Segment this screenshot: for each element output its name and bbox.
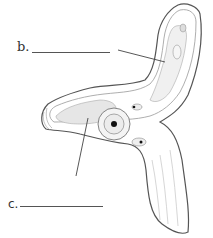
label-b: b. xyxy=(17,40,29,53)
small-bundle-2 xyxy=(132,138,146,146)
cross-section-drawing xyxy=(0,0,213,238)
diagram-canvas: b. c. xyxy=(0,0,213,238)
blank-c[interactable] xyxy=(20,206,103,207)
central-bundle-core xyxy=(111,121,117,127)
blank-b[interactable] xyxy=(32,52,110,53)
upper-cavity-2 xyxy=(173,45,181,59)
label-c: c. xyxy=(8,198,18,210)
small-bundle-2-core xyxy=(140,141,143,144)
small-bundle-1-core xyxy=(133,106,136,109)
upper-cavity-1 xyxy=(180,24,186,32)
